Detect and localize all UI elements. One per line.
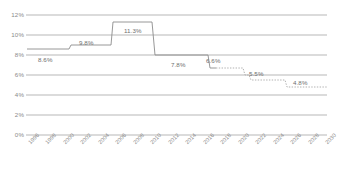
data-label-7-8: 7.8% (171, 61, 186, 68)
data-label-5-5: 5.5% (249, 70, 264, 77)
ytick-label-2: 2% (0, 111, 24, 118)
ytick-label-4: 4% (0, 91, 24, 98)
data-label-11-3: 11.3% (124, 27, 142, 34)
gridlines (26, 15, 327, 135)
data-label-8-6: 8.6% (38, 56, 53, 63)
series-line-historical (27, 22, 216, 68)
data-label-4-8: 4.8% (293, 79, 308, 86)
series-line-forecast (216, 68, 327, 87)
ytick-label-0: 0% (0, 131, 24, 138)
ytick-label-6: 6% (0, 71, 24, 78)
ytick-label-8: 8% (0, 51, 24, 58)
data-label-6-6: 6.6% (206, 57, 221, 64)
data-label-9-8: 9.8% (79, 39, 94, 46)
ytick-label-12: 12% (0, 11, 24, 18)
ytick-label-10: 10% (0, 31, 24, 38)
